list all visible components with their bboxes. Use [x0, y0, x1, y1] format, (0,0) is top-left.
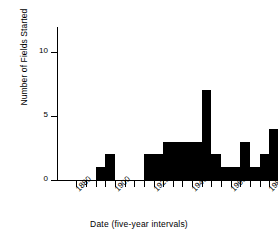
bar-1890 — [96, 167, 106, 180]
bar-1970 — [250, 167, 260, 180]
bar-1965 — [240, 142, 250, 181]
bar-1955 — [221, 167, 231, 180]
x-tick-1915 — [144, 181, 145, 187]
histogram-figure: Number of Fields Started 0510 1880190019… — [0, 0, 278, 241]
x-axis-title: Date (five-year intervals) — [0, 219, 278, 229]
bar-1895 — [105, 154, 115, 180]
bar-1945 — [202, 90, 212, 180]
y-tick-0: 0 — [51, 180, 57, 181]
bar-1950 — [211, 154, 221, 180]
y-tick-label: 10 — [39, 46, 48, 55]
x-tick-1935 — [182, 181, 183, 187]
bar-1940 — [192, 142, 202, 181]
x-tick-1930 — [173, 181, 174, 187]
x-tick-label-1880: 1880 — [74, 174, 93, 193]
y-tick-label: 0 — [44, 174, 48, 183]
x-tick-1910 — [134, 181, 135, 187]
x-tick-1975 — [260, 181, 261, 187]
y-axis-line — [57, 27, 58, 181]
plot-area: 0510 188019001920194019601980 — [57, 27, 278, 181]
bar-1925 — [163, 142, 173, 181]
bar-1915 — [144, 154, 154, 180]
bar-1975 — [260, 154, 270, 180]
bar-1960 — [231, 167, 241, 180]
y-tick-10: 10 — [51, 52, 57, 53]
x-tick-1950 — [211, 181, 212, 187]
y-axis-title: Number of Fields Started — [19, 0, 29, 127]
y-tick-5: 5 — [51, 116, 57, 117]
x-tick-label-1900: 1900 — [113, 174, 132, 193]
x-tick-1955 — [221, 181, 222, 187]
x-tick-1970 — [250, 181, 251, 187]
y-tick-label: 5 — [44, 110, 48, 119]
bar-1980 — [269, 129, 278, 180]
bar-1935 — [182, 142, 192, 181]
x-tick-1890 — [96, 181, 97, 187]
bar-1920 — [154, 154, 164, 180]
bar-1930 — [173, 142, 183, 181]
x-tick-1895 — [105, 181, 106, 187]
